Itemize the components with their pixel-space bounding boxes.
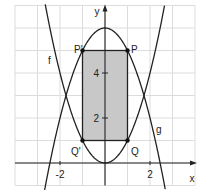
y-axis-label: y bbox=[95, 6, 100, 17]
y-tick-label-4: 4 bbox=[93, 68, 99, 79]
point-label-p: P bbox=[131, 44, 138, 55]
point-P bbox=[125, 48, 129, 52]
x-tick-label-neg2: -2 bbox=[56, 169, 65, 180]
curve-label-g: g bbox=[156, 124, 162, 135]
point-Q bbox=[125, 138, 129, 142]
coordinate-plot: x y -2 2 2 4 f g P' P Q' Q bbox=[0, 0, 200, 195]
point-Q-prime bbox=[80, 138, 84, 142]
point-label-p-prime: P' bbox=[74, 44, 83, 55]
x-tick-label-2: 2 bbox=[147, 169, 153, 180]
y-tick-label-2: 2 bbox=[93, 113, 99, 124]
point-label-q: Q bbox=[131, 146, 139, 157]
curve-label-f: f bbox=[48, 55, 51, 66]
x-axis-label: x bbox=[190, 173, 195, 184]
point-label-q-prime: Q' bbox=[71, 146, 81, 157]
x-axis-arrow-icon bbox=[190, 161, 197, 166]
